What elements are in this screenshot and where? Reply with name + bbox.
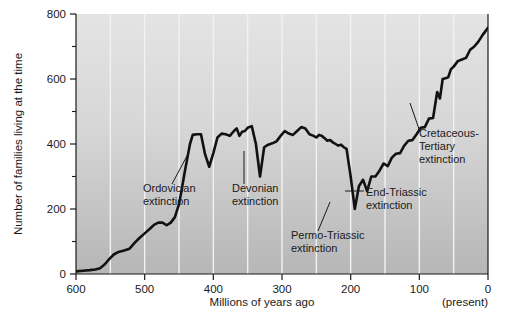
x-axis-title: Millions of years ago [210, 296, 315, 308]
annotation-line: extinction [366, 199, 412, 211]
annotation-label: Ordovicianextinction [143, 182, 196, 207]
x-tick-label: 0 [485, 283, 491, 295]
annotation-line: End-Triassic [366, 186, 427, 198]
x-tick-label: 500 [135, 283, 154, 295]
present-note: (present) [442, 296, 488, 308]
y-tick-label: 600 [47, 73, 66, 85]
x-tick-label: 200 [341, 283, 360, 295]
annotation-line: Devonian [232, 182, 278, 194]
y-axis-title: Number of families living at the time [12, 53, 24, 235]
annotation-line: Ordovician [143, 182, 196, 194]
annotation-line: extinction [419, 153, 465, 165]
y-tick-label: 200 [47, 203, 66, 215]
annotation-line: extinction [143, 195, 189, 207]
extinction-chart: 0200400600800 6005004003002001000 Ordovi… [0, 0, 519, 328]
annotation-label: Devonianextinction [232, 182, 278, 207]
y-tick-label: 400 [47, 138, 66, 150]
x-tick-label: 300 [272, 283, 291, 295]
annotation-line: extinction [232, 195, 278, 207]
x-tick-label: 400 [204, 283, 223, 295]
x-tick-label: 100 [410, 283, 429, 295]
x-tick-label: 600 [66, 283, 85, 295]
annotation-line: extinction [291, 242, 337, 254]
y-tick-label: 800 [47, 8, 66, 20]
annotation-line: Tertiary [419, 140, 456, 152]
y-tick-label: 0 [60, 268, 66, 280]
annotation-line: Permo-Triassic [291, 229, 365, 241]
annotation-line: Cretaceous- [419, 127, 479, 139]
